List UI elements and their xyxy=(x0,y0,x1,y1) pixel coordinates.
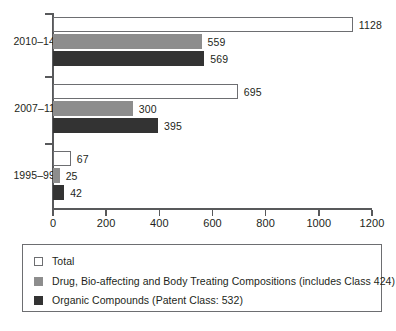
bar-total xyxy=(53,151,71,166)
x-axis-tick-label: 1200 xyxy=(352,217,392,229)
bar-drug xyxy=(53,168,60,183)
legend-item-total[interactable]: Total xyxy=(34,255,74,267)
legend-swatch-drug-icon xyxy=(34,277,43,286)
bar-organic xyxy=(53,185,64,200)
bar-value-label: 559 xyxy=(208,36,226,48)
bar-value-label: 42 xyxy=(70,187,82,199)
bar-value-label: 395 xyxy=(164,120,182,132)
bar-chart: 020040060080010001200 2010–142007–111995… xyxy=(0,0,396,331)
x-axis-tick-label: 200 xyxy=(86,217,126,229)
x-axis-tick xyxy=(265,210,267,216)
legend-item-organic[interactable]: Organic Compounds (Patent Class: 532) xyxy=(34,294,243,306)
x-axis-tick xyxy=(52,210,54,216)
x-axis-tick xyxy=(371,210,373,216)
legend-swatch-organic-icon xyxy=(34,296,43,305)
bar-drug xyxy=(53,101,133,116)
legend: TotalDrug, Bio-affecting and Body Treati… xyxy=(22,244,382,312)
legend-label: Drug, Bio-affecting and Body Treating Co… xyxy=(52,275,395,287)
y-axis-tick xyxy=(45,13,52,15)
x-axis-tick-label: 1000 xyxy=(299,217,339,229)
x-axis-tick-label: 600 xyxy=(193,217,233,229)
y-axis-category-label: 2010–14 xyxy=(13,35,55,47)
bar-organic xyxy=(53,51,204,66)
bar-value-label: 569 xyxy=(210,53,228,65)
bar-organic xyxy=(53,118,158,133)
bar-total xyxy=(53,84,238,99)
bar-value-label: 300 xyxy=(139,103,157,115)
bar-value-label: 1128 xyxy=(359,19,382,31)
x-axis-tick-label: 0 xyxy=(33,217,73,229)
bar-value-label: 25 xyxy=(66,170,78,182)
x-axis-tick xyxy=(212,210,214,216)
legend-item-drug[interactable]: Drug, Bio-affecting and Body Treating Co… xyxy=(34,275,395,287)
plot-area: 020040060080010001200 2010–142007–111995… xyxy=(0,0,396,215)
y-axis-tick xyxy=(45,143,52,145)
y-axis-category-label: 2007–11 xyxy=(14,102,55,114)
x-axis-tick-label: 800 xyxy=(246,217,286,229)
x-axis-tick-label: 400 xyxy=(139,217,179,229)
bar-total xyxy=(53,17,353,32)
bar-drug xyxy=(53,34,202,49)
legend-swatch-total-icon xyxy=(34,257,43,266)
y-axis-category-label: 1995–99 xyxy=(13,169,55,181)
legend-label: Organic Compounds (Patent Class: 532) xyxy=(52,294,243,306)
bar-value-label: 695 xyxy=(244,86,262,98)
y-axis-tick xyxy=(45,76,52,78)
x-axis-tick xyxy=(318,210,320,216)
bar-value-label: 67 xyxy=(77,153,89,165)
x-axis-tick xyxy=(105,210,107,216)
legend-label: Total xyxy=(52,255,74,267)
x-axis-tick xyxy=(159,210,161,216)
